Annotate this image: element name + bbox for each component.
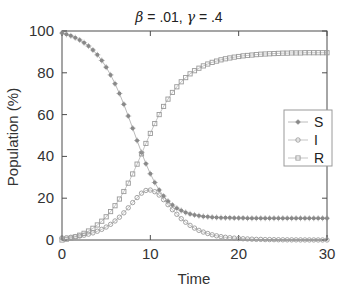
x-tick-label: 20: [230, 245, 247, 262]
x-tick-label: 10: [142, 245, 159, 262]
x-axis-label: Time: [178, 270, 211, 287]
y-tick-label: 100: [29, 22, 54, 39]
legend-label-I: I: [314, 132, 318, 148]
y-tick-label: 0: [46, 231, 54, 248]
legend-label-S: S: [314, 114, 323, 130]
y-tick-label: 20: [37, 189, 54, 206]
y-tick-label: 80: [37, 64, 54, 81]
y-axis-label: Population (%): [4, 88, 21, 186]
legend-label-R: R: [314, 150, 324, 166]
chart-legend[interactable]: SIR: [284, 110, 332, 166]
x-tick-label: 30: [319, 245, 336, 262]
y-tick-label: 40: [37, 147, 54, 164]
figure-canvas: β = .01, γ = .4 0102030 020406080100 Tim…: [0, 0, 359, 290]
sir-model-chart: β = .01, γ = .4 0102030 020406080100 Tim…: [0, 0, 359, 290]
x-tick-label: 0: [58, 245, 66, 262]
chart-title: β = .01, γ = .4: [134, 9, 223, 25]
y-tick-label: 60: [37, 106, 54, 123]
